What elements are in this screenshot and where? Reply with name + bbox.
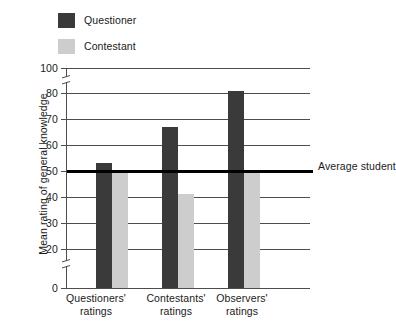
legend-label-questioner: Questioner [84, 14, 136, 26]
x-label-line1: Questioners' [58, 292, 134, 305]
bar-contestant-group-2 [178, 194, 194, 288]
x-label-line1: Observers' [204, 292, 280, 305]
bar-contestant-group-3 [244, 171, 260, 288]
y-tick-label-20: 20 [18, 244, 58, 254]
average-student-label-line1: Average [318, 160, 358, 172]
bar-questioner-group-2 [162, 127, 178, 288]
average-student-line [67, 170, 313, 173]
x-axis-label-contestants: Contestants' ratings [138, 292, 214, 317]
bar-questioner-group-3 [228, 91, 244, 289]
y-tick-label-50: 50 [18, 166, 58, 176]
legend-item-questioner: Questioner [58, 12, 258, 28]
legend-swatch-contestant [58, 39, 75, 54]
chart-legend: Questioner Contestant [58, 12, 258, 64]
bar-questioner-group-1 [96, 163, 112, 288]
y-tick-label-40: 40 [18, 192, 58, 202]
x-axis-label-observers: Observers' ratings [204, 292, 280, 317]
gridline-0 [67, 288, 310, 289]
x-axis-label-questioners: Questioners' ratings [58, 292, 134, 317]
x-label-line2: ratings [204, 305, 280, 318]
average-student-label: Average student [318, 159, 396, 173]
y-tick-label-0: 0 [18, 283, 58, 293]
y-tick-label-80: 80 [18, 88, 58, 98]
average-student-label-line2: student [361, 160, 396, 172]
x-label-line2: ratings [138, 305, 214, 318]
legend-swatch-questioner [58, 13, 75, 28]
y-tick-label-100: 100 [18, 63, 58, 73]
y-tick-label-70: 70 [18, 114, 58, 124]
legend-item-contestant: Contestant [58, 38, 258, 54]
y-tick-label-30: 30 [18, 218, 58, 228]
legend-label-contestant: Contestant [84, 40, 136, 52]
bars-layer [67, 68, 310, 288]
x-label-line2: ratings [58, 305, 134, 318]
bar-contestant-group-1 [112, 171, 128, 288]
y-tick-label-60: 60 [18, 140, 58, 150]
x-label-line1: Contestants' [138, 292, 214, 305]
